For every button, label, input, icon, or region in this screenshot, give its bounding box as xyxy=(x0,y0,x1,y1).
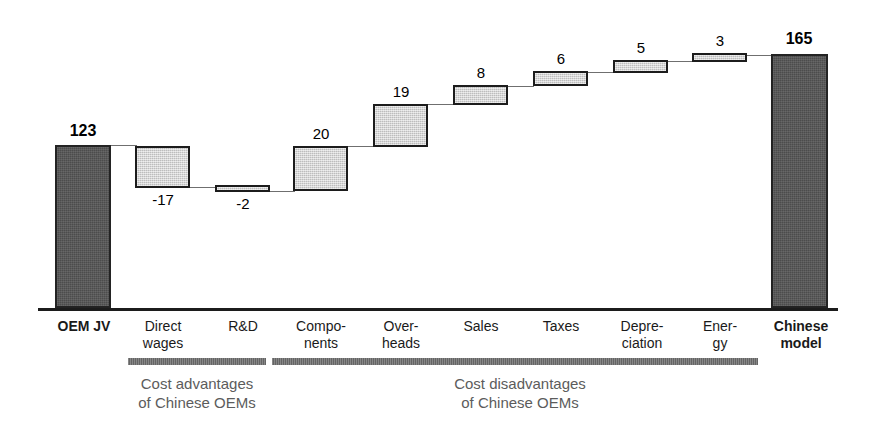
category-label-oem-jv: OEM JV xyxy=(48,318,120,335)
connector-line xyxy=(346,146,375,147)
value-label-chinese-model: 165 xyxy=(769,31,829,46)
bar-energy[interactable] xyxy=(692,53,747,62)
category-label-taxes: Taxes xyxy=(525,318,597,335)
waterfall-chart: 123 -17 -2 20 19 8 6 5 3 165 OEM JV Dire… xyxy=(0,0,881,444)
connector-line xyxy=(506,86,534,87)
bar-chinese-model[interactable] xyxy=(771,54,828,308)
x-axis-line xyxy=(38,308,838,311)
category-label-chinese-model: Chinese model xyxy=(763,318,839,352)
value-label-components: 20 xyxy=(291,126,351,141)
plot-area: 123 -17 -2 20 19 8 6 5 3 165 OEM JV Dire… xyxy=(0,0,881,444)
value-label-oem-jv: 123 xyxy=(53,123,113,138)
category-label-overheads: Over- heads xyxy=(365,318,437,352)
category-label-components: Compo- nents xyxy=(285,318,357,352)
group-bar-cost-disadvantages xyxy=(272,358,758,365)
connector-line xyxy=(426,104,455,105)
value-label-direct-wages: -17 xyxy=(133,192,193,207)
group-caption-cost-disadvantages: Cost disadvantages of Chinese OEMs xyxy=(425,374,615,412)
bar-sales[interactable] xyxy=(453,85,508,105)
connector-line xyxy=(746,55,772,56)
group-bar-cost-advantages xyxy=(128,358,266,365)
bar-components[interactable] xyxy=(293,146,348,191)
value-label-depreciation: 5 xyxy=(611,40,671,55)
bar-overheads[interactable] xyxy=(373,104,428,147)
bar-rd[interactable] xyxy=(215,185,270,192)
value-label-sales: 8 xyxy=(451,65,511,80)
value-label-energy: 3 xyxy=(690,33,750,48)
value-label-taxes: 6 xyxy=(531,51,591,66)
connector-line xyxy=(268,191,295,192)
category-label-depreciation: Depre- ciation xyxy=(603,318,681,352)
value-label-rd: -2 xyxy=(213,196,273,211)
category-label-energy: Ener- gy xyxy=(684,318,756,352)
bar-depreciation[interactable] xyxy=(613,60,668,73)
bar-taxes[interactable] xyxy=(533,71,588,86)
connector-line xyxy=(586,72,614,73)
group-caption-cost-advantages: Cost advantages of Chinese OEMs xyxy=(107,374,287,412)
connector-line xyxy=(188,187,217,188)
category-label-direct-wages: Direct wages xyxy=(128,318,198,352)
connector-line xyxy=(666,61,694,62)
category-label-rd: R&D xyxy=(208,318,278,335)
bar-direct-wages[interactable] xyxy=(135,146,190,188)
bar-oem-jv[interactable] xyxy=(55,145,111,308)
category-label-sales: Sales xyxy=(445,318,517,335)
value-label-overheads: 19 xyxy=(371,84,431,99)
connector-line xyxy=(111,145,137,146)
